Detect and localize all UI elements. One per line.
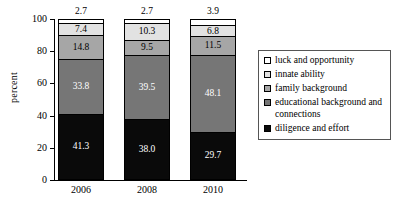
bar-segment-value: 38.0	[139, 145, 156, 155]
legend-item-label: educational background and connections	[275, 97, 385, 120]
bar-top-value: 3.9	[190, 6, 236, 16]
y-tick-label: 60	[23, 78, 47, 88]
legend-item[interactable]: educational background and connections	[264, 97, 385, 120]
y-axis-title: percent	[8, 53, 19, 123]
x-tick-label: 2006	[51, 184, 111, 195]
legend-swatch-icon	[264, 57, 271, 64]
bar-group[interactable]: 29.748.111.56.83.9	[190, 19, 236, 180]
bar-segment-value: 39.5	[139, 83, 156, 93]
legend-item[interactable]: luck and opportunity	[264, 55, 385, 67]
legend-item[interactable]: family background	[264, 83, 385, 95]
x-tick-label: 2010	[183, 184, 243, 195]
bar-segment-value: 14.8	[73, 43, 90, 53]
chart-legend: luck and opportunityinnate abilityfamily…	[258, 50, 391, 140]
bar-segment[interactable]: 11.5	[190, 36, 236, 55]
bar-segment[interactable]: 7.4	[58, 23, 104, 35]
bar-segment[interactable]: 9.5	[124, 40, 170, 55]
bar-segment-value: 10.3	[139, 27, 156, 37]
legend-item-label: innate ability	[275, 69, 385, 81]
legend-item[interactable]: diligence and effort	[264, 123, 385, 135]
x-tick-label: 2008	[117, 184, 177, 195]
legend-swatch-icon	[264, 71, 271, 78]
stacked-bar-chart: percent 100806040200 41.333.814.87.42.73…	[0, 0, 399, 211]
legend-item-label: family background	[275, 83, 385, 95]
bar-segment-value: 9.5	[141, 43, 153, 53]
y-tick-mark	[50, 116, 54, 117]
bar-segment-value: 7.4	[75, 25, 87, 35]
y-tick-mark	[50, 148, 54, 149]
bar-segment[interactable]: 29.7	[190, 132, 236, 180]
y-tick-label: 100	[23, 14, 47, 24]
legend-swatch-icon	[264, 99, 271, 106]
bar-segment[interactable]: 6.8	[190, 25, 236, 36]
bar-top-value: 2.7	[124, 6, 170, 16]
bar-segment-value: 29.7	[205, 151, 222, 161]
bar-segment[interactable]: 38.0	[124, 119, 170, 180]
bar-segment-value: 33.8	[73, 82, 90, 92]
y-tick-mark	[50, 83, 54, 84]
legend-item-label: luck and opportunity	[275, 55, 385, 67]
bar-segment-value: 48.1	[205, 89, 222, 99]
y-tick-label: 0	[23, 175, 47, 185]
bar-group[interactable]: 38.039.59.510.32.7	[124, 19, 170, 180]
y-tick-mark	[50, 19, 54, 20]
legend-swatch-icon	[264, 125, 271, 132]
bar-segment[interactable]	[58, 19, 104, 23]
bar-segment-value: 41.3	[73, 142, 90, 152]
y-tick-mark	[50, 51, 54, 52]
bar-segment[interactable]	[190, 19, 236, 25]
bar-group[interactable]: 41.333.814.87.42.7	[58, 19, 104, 180]
bar-segment[interactable]: 39.5	[124, 55, 170, 119]
y-tick-label: 80	[23, 46, 47, 56]
plot-area: 41.333.814.87.42.738.039.59.510.32.729.7…	[54, 19, 247, 180]
y-tick-mark	[50, 180, 54, 181]
bar-segment-value: 6.8	[207, 27, 219, 37]
legend-item[interactable]: innate ability	[264, 69, 385, 81]
x-axis-line	[54, 180, 247, 181]
bar-segment[interactable]: 41.3	[58, 114, 104, 180]
bar-segment[interactable]: 14.8	[58, 35, 104, 59]
y-tick-label: 40	[23, 111, 47, 121]
bar-segment[interactable]: 10.3	[124, 23, 170, 40]
bar-segment-value: 11.5	[205, 41, 221, 51]
legend-swatch-icon	[264, 85, 271, 92]
bar-top-value: 2.7	[58, 6, 104, 16]
legend-item-label: diligence and effort	[275, 123, 385, 135]
y-axis-ticks: 100806040200	[23, 0, 47, 211]
bar-segment[interactable]	[124, 19, 170, 23]
y-tick-label: 20	[23, 143, 47, 153]
bar-segment[interactable]: 48.1	[190, 55, 236, 132]
bar-segment[interactable]: 33.8	[58, 59, 104, 113]
